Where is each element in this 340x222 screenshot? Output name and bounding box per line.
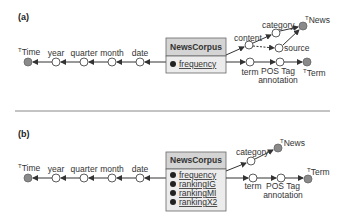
year-node [52, 174, 60, 182]
fact-box[interactable]: NewsCorpus frequency rankingIG rankingMI… [166, 152, 226, 211]
category-label: category [236, 147, 269, 157]
term-label: term [245, 181, 262, 191]
top-news-node [274, 144, 282, 152]
term-node [246, 58, 254, 66]
year-node [52, 58, 60, 66]
date-node [136, 58, 144, 66]
fact-box[interactable]: NewsCorpus frequency [166, 38, 226, 73]
content-label: content [234, 33, 263, 43]
measure-frequency[interactable]: frequency [179, 59, 217, 69]
measure-bullet-icon [170, 190, 176, 196]
measure-ranking-x2[interactable]: rankingX2 [179, 197, 218, 207]
date-label: date [132, 48, 149, 58]
top-term-label: TTerm [303, 68, 326, 78]
measure-bullet-icon [170, 61, 176, 67]
month-node [108, 58, 116, 66]
quarter-node [80, 58, 88, 66]
month-label: month [100, 164, 124, 174]
top-time-node [24, 174, 32, 182]
month-label: month [100, 48, 124, 58]
top-news-label: TNews [305, 15, 330, 25]
month-node [108, 174, 116, 182]
source-label: source [284, 43, 310, 53]
top-time-label: TTime [18, 47, 41, 57]
category-label: category [262, 20, 295, 30]
panel-label: (b) [18, 129, 30, 139]
category-node [272, 29, 280, 37]
fact-title: NewsCorpus [170, 155, 222, 165]
top-time-label: TTime [18, 163, 41, 173]
source-node [275, 44, 283, 52]
category-node [247, 157, 255, 165]
pos-tag-node [276, 58, 284, 66]
top-news-node [299, 22, 307, 30]
annotation-label: annotation [263, 190, 303, 200]
panel-b: (b) TTime year quarter month date NewsCo… [18, 129, 330, 211]
date-label: date [132, 164, 149, 174]
quarter-label: quarter [71, 48, 98, 58]
top-news-label: TNews [280, 138, 305, 148]
annotation-label: annotation [258, 75, 298, 85]
quarter-node [80, 174, 88, 182]
fact-title: NewsCorpus [170, 42, 222, 52]
measure-bullet-icon [170, 181, 176, 187]
year-label: year [48, 164, 65, 174]
measure-bullet-icon [170, 199, 176, 205]
top-time-node [24, 58, 32, 66]
date-node [136, 174, 144, 182]
diagram-canvas: (a) TTime year quarter month date NewsCo… [0, 0, 340, 222]
top-term-node [303, 58, 311, 66]
quarter-label: quarter [71, 164, 98, 174]
panel-label: (a) [18, 12, 29, 22]
measure-bullet-icon [170, 172, 176, 178]
top-term-label: TTerm [307, 167, 330, 177]
year-label: year [48, 48, 65, 58]
term-label: term [242, 67, 259, 77]
panel-a: (a) TTime year quarter month date NewsCo… [18, 12, 330, 85]
